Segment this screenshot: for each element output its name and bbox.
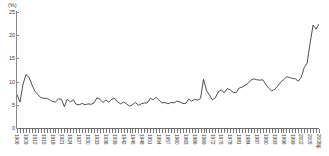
x-axis-tick-mark — [32, 129, 33, 133]
x-axis-tick-mark — [221, 129, 222, 133]
x-axis-tick-mark — [115, 129, 116, 133]
x-axis-tick-mark — [29, 129, 30, 133]
x-axis-tick-label: 1963 — [183, 134, 188, 144]
x-axis-tick-label: 1933 — [94, 134, 99, 144]
x-axis-tick-label: 1939 — [112, 134, 117, 144]
x-axis-tick-mark — [260, 129, 261, 133]
x-axis-tick-mark — [159, 129, 160, 133]
x-axis-tick-mark — [67, 129, 68, 133]
x-axis-tick-mark — [278, 129, 279, 133]
x-axis-tick-mark — [189, 129, 190, 133]
x-axis-tick-mark — [35, 129, 36, 133]
x-axis-tick-label: 1948 — [139, 134, 144, 144]
x-axis-tick-mark — [97, 129, 98, 133]
x-axis-tick-label: 1957 — [165, 134, 170, 144]
x-axis-tick-mark — [73, 129, 74, 133]
x-axis-tick-label: 1924 — [67, 134, 72, 144]
x-axis-tick-mark — [275, 129, 276, 133]
x-axis-tick-label: 2005 — [307, 134, 312, 144]
x-axis-tick-label: 1987 — [254, 134, 259, 144]
y-axis-tick-mark — [16, 128, 19, 129]
x-axis-tick-mark — [124, 129, 125, 133]
plot-area — [17, 12, 319, 128]
x-axis-tick-mark — [186, 129, 187, 133]
x-axis-tick-label: 2002 — [298, 134, 303, 144]
x-axis-tick-mark — [168, 129, 169, 133]
x-axis-tick-mark — [204, 129, 205, 133]
x-axis-tick-mark — [20, 129, 21, 133]
x-axis-tick-mark — [70, 129, 71, 133]
x-axis-tick-label: 1969 — [201, 134, 206, 144]
x-axis-tick-mark — [272, 129, 273, 133]
x-axis-tick-mark — [263, 129, 264, 133]
x-axis-tick-mark — [206, 129, 207, 133]
x-axis-tick-mark — [132, 129, 133, 133]
x-axis-tick-label: 1975 — [218, 134, 223, 144]
x-axis-tick-mark — [215, 129, 216, 133]
x-axis-tick-label: 1942 — [121, 134, 126, 144]
x-axis-tick-mark — [144, 129, 145, 133]
x-axis-tick-label: 1945 — [130, 134, 135, 144]
x-axis-tick-mark — [171, 129, 172, 133]
x-axis-tick-mark — [195, 129, 196, 133]
y-axis-tick-labels: 0510152025 — [0, 0, 15, 156]
x-axis-tick-mark — [227, 129, 228, 133]
x-axis-tick-mark — [198, 129, 199, 133]
x-axis-tick-mark — [121, 129, 122, 133]
x-axis-tick-mark — [230, 129, 231, 133]
x-axis-tick-mark — [286, 129, 287, 133]
x-axis-tick-label: 1978 — [227, 134, 232, 144]
x-axis-tick-mark — [239, 129, 240, 133]
x-axis-tick-mark — [177, 129, 178, 133]
x-axis-tick-mark — [224, 129, 225, 133]
x-axis-tick-label: 1927 — [76, 134, 81, 144]
x-axis-tick-label: 1936 — [103, 134, 108, 144]
x-axis-tick-mark — [61, 129, 62, 133]
x-axis-tick-mark — [55, 129, 56, 133]
x-axis-tick-mark — [141, 129, 142, 133]
x-axis-tick-mark — [153, 129, 154, 133]
x-axis-tick-mark — [201, 129, 202, 133]
x-axis-tick-mark — [192, 129, 193, 133]
x-axis-tick-mark — [298, 129, 299, 133]
x-axis-tick-label: 1996 — [281, 134, 286, 144]
x-axis-tick-mark — [218, 129, 219, 133]
x-axis-tick-mark — [100, 129, 101, 133]
x-axis-tick-mark — [295, 129, 296, 133]
x-axis-tick-mark — [76, 129, 77, 133]
y-axis-tick-label: 15 — [1, 55, 15, 61]
x-axis-tick-mark — [127, 129, 128, 133]
x-axis-tick-mark — [165, 129, 166, 133]
x-axis-tick-mark — [103, 129, 104, 133]
x-axis-tick-mark — [283, 129, 284, 133]
x-axis-tick-mark — [17, 129, 18, 133]
x-axis-tick-label: 1984 — [245, 134, 250, 144]
x-axis-tick-label: 1951 — [147, 134, 152, 144]
x-axis-tick-mark — [109, 129, 110, 133]
x-axis-tick-label: 1912 — [32, 134, 37, 144]
y-axis-tick-mark — [16, 82, 19, 83]
x-axis-tick-mark — [118, 129, 119, 133]
x-axis-tick-mark — [88, 129, 89, 133]
x-axis-tick-label: 1906 — [14, 134, 19, 144]
x-axis-tick-mark — [304, 129, 305, 133]
y-axis-tick-label: 10 — [1, 79, 15, 85]
y-axis-tick-mark — [16, 12, 19, 13]
x-axis-tick-mark — [79, 129, 80, 133]
x-axis-tick-mark — [301, 129, 302, 133]
x-axis-tick-label: 1918 — [50, 134, 55, 144]
x-axis-tick-mark — [233, 129, 234, 133]
x-axis-tick-mark — [135, 129, 136, 133]
x-axis-tick-mark — [313, 129, 314, 133]
y-axis-tick-mark — [16, 35, 19, 36]
x-axis-tick-mark — [251, 129, 252, 133]
x-axis-tick-label: 1990 — [263, 134, 268, 144]
x-axis-tick-mark — [236, 129, 237, 133]
x-axis-tick-mark — [138, 129, 139, 133]
x-axis-tick-label: 1921 — [59, 134, 64, 144]
x-axis-tick-mark — [254, 129, 255, 133]
x-axis-tick-mark — [82, 129, 83, 133]
x-axis-tick-mark — [269, 129, 270, 133]
x-axis-tick-label: 1960 — [174, 134, 179, 144]
y-axis-tick-label: 20 — [1, 32, 15, 38]
